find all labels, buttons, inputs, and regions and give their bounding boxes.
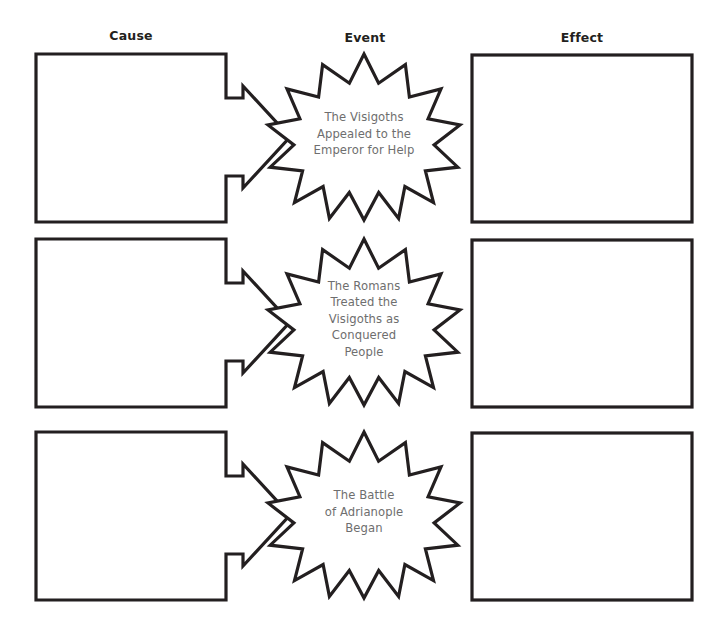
cause-box-with-arrow[interactable] — [36, 432, 290, 600]
event-text: The Romans Treated the Visigoths as Conq… — [302, 235, 426, 403]
cause-effect-worksheet: Cause Event Effect The Visigoths Appeale… — [0, 0, 725, 625]
effect-box[interactable] — [472, 240, 692, 407]
column-header-effect: Effect — [472, 30, 692, 45]
column-header-event: Event — [290, 30, 440, 45]
event-text: The Battle of Adrianople Began — [302, 428, 426, 596]
effect-box[interactable] — [472, 55, 692, 222]
cause-box-with-arrow[interactable] — [36, 239, 290, 407]
event-text: The Visigoths Appealed to the Emperor fo… — [302, 50, 426, 218]
cause-box-with-arrow[interactable] — [36, 54, 290, 222]
column-header-cause: Cause — [36, 28, 226, 43]
effect-box[interactable] — [472, 433, 692, 600]
